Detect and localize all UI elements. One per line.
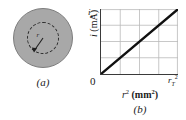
y-tick-subscript: s (91, 13, 93, 19)
y-axis-symbol: i (88, 34, 99, 37)
x-tick-label-rt-squared: rT2 (168, 74, 178, 87)
figure-root: r (a) (0, 0, 186, 120)
x-axis-unit-close: ) (155, 89, 158, 100)
x-axis-label: r2 (mm2) (94, 88, 186, 100)
x-tick-superscript: 2 (175, 74, 178, 80)
panel-b-plot: i (mA) is 0 rT2 r2 (mm2) (b) (86, 0, 186, 120)
plot-axes-area (100, 9, 178, 75)
svg-text:r: r (37, 31, 40, 39)
panel-a-caption: (a) (0, 76, 86, 88)
radius-arrow-icon: r (13, 8, 73, 68)
y-tick-label-is: is (88, 7, 93, 19)
plot-data-line (101, 9, 178, 74)
x-axis-unit-open: (mm (132, 89, 152, 100)
panel-a-wire-cross-section: r (a) (0, 0, 86, 120)
x-tick-subscript: T (172, 81, 175, 87)
origin-label: 0 (90, 75, 96, 87)
panel-b-caption: (b) (94, 103, 186, 115)
x-axis-superscript: 2 (126, 88, 129, 95)
